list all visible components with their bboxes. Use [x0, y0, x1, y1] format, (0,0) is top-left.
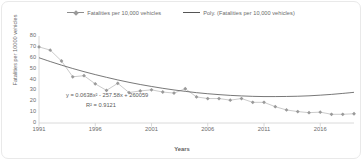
data-point-marker — [240, 97, 244, 101]
data-point-marker — [150, 88, 154, 92]
data-point-marker — [330, 112, 334, 116]
data-point-marker — [206, 97, 210, 101]
chart-canvas — [2, 2, 362, 160]
trendline-equation: y = 0.0638x² - 257.58x + 260059 — [66, 92, 148, 98]
data-point-marker — [273, 105, 277, 109]
data-point-marker — [217, 97, 221, 101]
x-tick-marks — [39, 123, 320, 127]
data-point-marker — [285, 108, 289, 112]
plot-area: Fatalities per 10000 vehicles 8070605040… — [2, 2, 362, 160]
data-point-marker — [352, 112, 356, 116]
data-point-marker — [262, 100, 266, 104]
data-point-marker — [341, 112, 345, 116]
x-tick-label: 2006 — [201, 126, 214, 132]
data-point-marker — [307, 111, 311, 115]
x-tick-label: 1996 — [89, 126, 102, 132]
data-point-marker — [228, 98, 232, 102]
data-point-marker — [37, 45, 41, 49]
series-markers — [37, 45, 356, 116]
x-axis-title: Years — [2, 146, 362, 152]
chart-card: Fatalities per 10,000 vehicles Poly. (Fa… — [1, 1, 361, 159]
data-point-marker — [161, 90, 165, 94]
data-point-marker — [172, 91, 176, 95]
data-point-marker — [296, 110, 300, 114]
x-tick-label: 2011 — [258, 126, 270, 132]
data-point-marker — [318, 110, 322, 114]
trendline-r-squared: R² = 0.9121 — [86, 102, 116, 108]
x-tick-label: 2016 — [314, 126, 327, 132]
x-tick-label: 1991 — [33, 126, 46, 132]
x-tick-label: 2001 — [145, 126, 158, 132]
data-point-marker — [251, 100, 255, 104]
